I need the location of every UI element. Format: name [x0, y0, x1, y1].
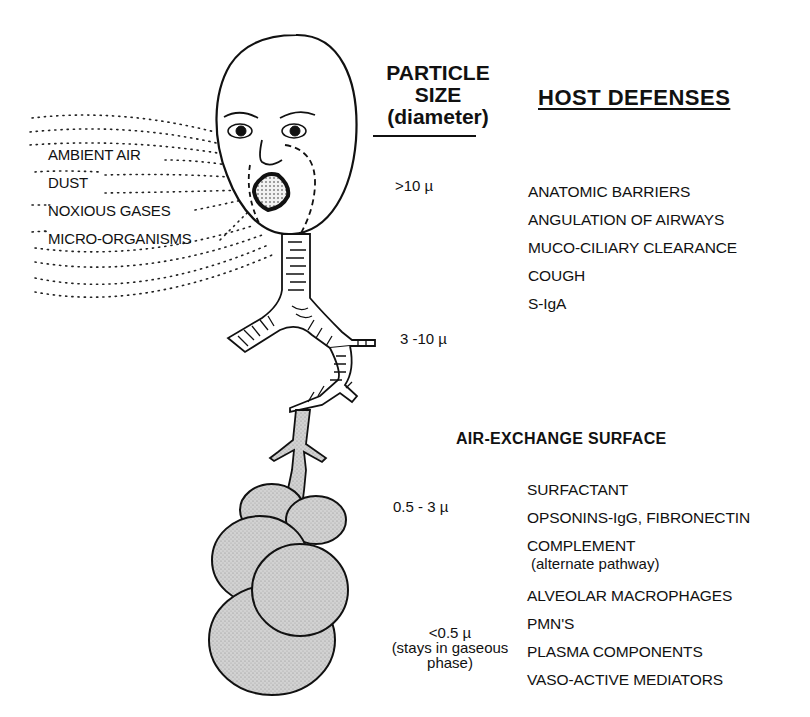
defense-complement-note: (alternate pathway) — [531, 555, 659, 572]
airway-tree — [228, 234, 375, 520]
inhaled-agent-micro-organisms: MICRO-ORGANISMS — [48, 230, 192, 247]
particle-size-header-line2: SIZE — [368, 84, 508, 106]
defense-complement: COMPLEMENT — [527, 537, 635, 555]
particle-size-underline — [373, 135, 476, 137]
defense-cough: COUGH — [528, 267, 585, 285]
particle-size-alveoli-note-2: phase) — [376, 654, 524, 671]
particle-size-small-airways: 0.5 - 3 µ — [393, 498, 448, 515]
alveolar-sacs — [209, 484, 348, 695]
defense-anatomic-barriers: ANATOMIC BARRIERS — [528, 183, 690, 201]
defense-angulation-of-airways: ANGULATION OF AIRWAYS — [528, 211, 724, 229]
particle-size-large-airways: 3 -10 µ — [400, 330, 447, 347]
inhaled-agent-ambient-air: AMBIENT AIR — [48, 146, 141, 163]
inhaled-agent-noxious-gases: NOXIOUS GASES — [48, 202, 170, 219]
particle-size-upper-airway: >10 µ — [395, 177, 433, 194]
particle-size-header: PARTICLE SIZE (diameter) — [368, 62, 508, 128]
particle-size-header-line1: PARTICLE — [368, 62, 508, 84]
particle-size-alveoli-block: <0.5 µ (stays in gaseous phase) — [376, 624, 524, 671]
particle-size-header-line3: (diameter) — [368, 106, 508, 128]
defense-surfactant: SURFACTANT — [527, 481, 628, 499]
defense-opsonins: OPSONINS-IgG, FIBRONECTIN — [527, 509, 750, 527]
defense-muco-ciliary-clearance: MUCO-CILIARY CLEARANCE — [528, 239, 737, 257]
host-defenses-header: HOST DEFENSES — [538, 85, 730, 111]
defense-pmns: PMN'S — [527, 615, 574, 633]
defense-alveolar-macrophages: ALVEOLAR MACROPHAGES — [527, 587, 732, 605]
defense-s-iga: S-IgA — [528, 295, 566, 313]
head-drawing — [216, 35, 356, 235]
defense-plasma-components: PLASMA COMPONENTS — [527, 643, 703, 661]
defense-vaso-active-mediators: VASO-ACTIVE MEDIATORS — [527, 671, 723, 689]
inhaled-agent-dust: DUST — [48, 174, 88, 191]
air-exchange-surface-header: AIR-EXCHANGE SURFACE — [456, 430, 666, 448]
